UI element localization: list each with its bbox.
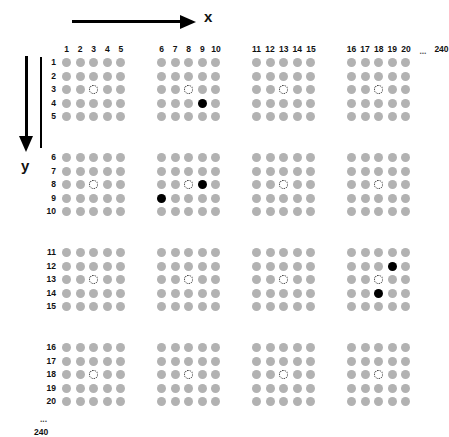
dot-default [306,370,315,379]
row-label: 9 [38,194,56,203]
dot-default [401,384,410,393]
dot-default [361,99,370,108]
dot-default [388,72,397,81]
dot-default [306,72,315,81]
row-label: 8 [38,180,56,189]
dot-default [211,112,220,121]
dot-default [184,302,193,311]
dot-default [89,112,98,121]
row-label: 2 [38,72,56,81]
dot-default [388,58,397,67]
dot-default [266,370,275,379]
row-label: 14 [38,289,56,298]
dot-default [388,289,397,298]
dot-default [171,58,180,67]
dot-default [198,58,207,67]
dot-default [116,397,125,406]
dot-default [76,397,85,406]
dot-default [266,343,275,352]
dot-default [103,99,112,108]
dot-default [184,167,193,176]
dot-open [184,180,193,189]
row-ellipsis: ... [40,415,47,424]
dot-default [103,58,112,67]
dot-default [252,248,261,257]
dot-default [401,99,410,108]
dot-default [116,194,125,203]
dot-default [184,99,193,108]
dot-default [116,262,125,271]
dot-default [211,384,220,393]
dot-default [89,153,98,162]
dot-default [211,262,220,271]
dot-default [266,248,275,257]
dot-default [361,248,370,257]
dot-marked [198,99,207,108]
dot-default [103,167,112,176]
dot-default [266,275,275,284]
dot-default [171,343,180,352]
row-label: 10 [38,207,56,216]
dot-default [266,357,275,366]
dot-default [157,85,166,94]
dot-default [347,85,356,94]
dot-default [198,194,207,203]
dot-default [279,153,288,162]
dot-default [76,262,85,271]
dot-default [306,289,315,298]
dot-default [103,343,112,352]
dot-open [374,180,383,189]
dot-default [103,207,112,216]
dot-default [252,207,261,216]
dot-default [198,370,207,379]
dot-default [157,357,166,366]
dot-default [211,207,220,216]
row-label: 7 [38,167,56,176]
dot-default [116,85,125,94]
dot-default [306,248,315,257]
dot-default [279,248,288,257]
dot-default [171,384,180,393]
dot-default [157,180,166,189]
dot-default [89,262,98,271]
dot-default [347,207,356,216]
dot-default [347,289,356,298]
dot-default [361,397,370,406]
dot-default [171,248,180,257]
dot-default [374,384,383,393]
x-axis-arrowhead [180,15,196,29]
dot-default [279,99,288,108]
dot-default [279,58,288,67]
dot-default [388,343,397,352]
dot-default [252,153,261,162]
dot-default [347,370,356,379]
dot-default [116,275,125,284]
dot-default [401,370,410,379]
dot-default [266,58,275,67]
dot-default [361,343,370,352]
dot-default [293,370,302,379]
dot-default [171,397,180,406]
dot-default [211,72,220,81]
column-header: 15 [302,45,320,54]
dot-default [401,167,410,176]
dot-default [374,167,383,176]
dot-default [184,384,193,393]
dot-default [103,370,112,379]
dot-default [116,343,125,352]
y-axis-shaft [25,56,28,140]
dot-default [401,302,410,311]
dot-default [266,72,275,81]
dot-default [157,58,166,67]
dot-default [293,248,302,257]
dot-default [103,262,112,271]
dot-default [198,153,207,162]
dot-default [184,207,193,216]
dot-default [374,248,383,257]
dot-default [266,180,275,189]
dot-default [184,343,193,352]
dot-default [361,194,370,203]
dot-default [361,112,370,121]
dot-default [401,58,410,67]
dot-default [252,72,261,81]
